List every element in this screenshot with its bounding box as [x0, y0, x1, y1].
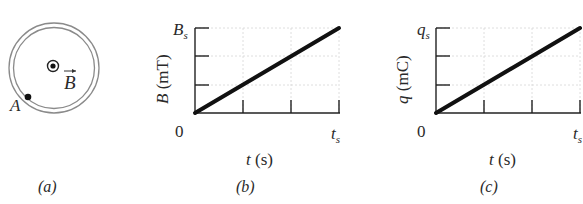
y-top-label-c: qs [417, 20, 430, 41]
y-axis-title-c: q (mC) [393, 55, 412, 104]
y-top-label-b: Bs [173, 20, 188, 41]
data-line-c [436, 28, 580, 113]
point-a-marker [25, 94, 32, 101]
panel-a: B A (a) [9, 23, 99, 196]
x-axis-title-c: t (s) [489, 150, 516, 169]
point-a-label: A [9, 96, 21, 115]
origin-label-c: 0 [417, 122, 426, 141]
panel-b-graph: Bs 0 ts B (mT) t (s) (b) [153, 20, 340, 196]
x-end-label-c: ts [573, 124, 582, 145]
figure-canvas: B A (a) [0, 0, 583, 204]
x-end-label-b: ts [331, 124, 340, 145]
origin-label-b: 0 [175, 122, 184, 141]
panel-c-graph: qs 0 ts q (mC) t (s) (c) [393, 20, 582, 196]
caption-b: (b) [236, 178, 255, 196]
field-label: B [64, 72, 76, 93]
out-of-page-dot-icon [48, 61, 59, 72]
x-axis-title-b: t (s) [246, 150, 273, 169]
y-axis-title-b: B (mT) [153, 54, 172, 104]
caption-a: (a) [38, 178, 57, 196]
data-line-b [195, 28, 339, 113]
caption-c: (c) [480, 178, 498, 196]
figure-svg: B A (a) [0, 0, 583, 204]
